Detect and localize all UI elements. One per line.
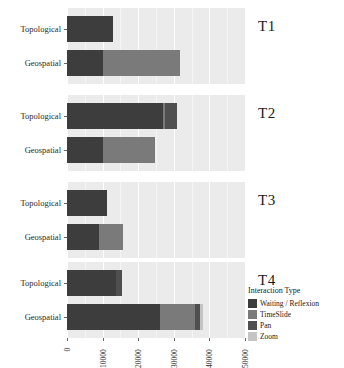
y-axis-label-topological: Topological [0, 198, 61, 208]
gridline-x-50000 [245, 8, 246, 84]
x-axis-label-40000: 40000 [205, 342, 214, 368]
legend-swatch-icon [248, 310, 257, 319]
bar-t3-topological [67, 190, 245, 216]
legend-item-pan[interactable]: Pan [248, 320, 319, 330]
facet-label-t1: T1 [258, 18, 276, 35]
facet-panel-t1: TopologicalGeospatial [0, 8, 344, 84]
bar-t1-geospatial [67, 50, 245, 76]
bar-segment-waiting-reflexion [67, 270, 116, 296]
bar-segment-waiting-reflexion [67, 224, 99, 250]
legend-item-zoom[interactable]: Zoom [248, 331, 319, 341]
bar-t4-topological [67, 270, 245, 296]
gridline-x-50000 [245, 262, 246, 338]
gridline-x-50000 [245, 182, 246, 258]
legend-label: Zoom [260, 332, 278, 341]
bar-segment-timeslide [160, 304, 195, 330]
legend-swatch-icon [248, 321, 257, 330]
gridline-x-50000 [245, 95, 246, 171]
bar-segment-waiting-reflexion [67, 103, 163, 129]
legend-title: Interaction Type [248, 286, 319, 295]
x-axis-label-0: 0 [63, 333, 72, 367]
bar-segment-waiting-reflexion [67, 137, 103, 163]
facet-label-t2: T2 [258, 105, 276, 122]
stacked-bar-chart: TopologicalGeospatialT1TopologicalGeospa… [0, 0, 344, 368]
x-axis-label-30000: 30000 [169, 342, 178, 368]
bar-segment-timeslide [103, 137, 155, 163]
bar-segment-waiting-reflexion [67, 304, 160, 330]
legend-swatch-icon [248, 299, 257, 308]
bar-segment-pan [116, 270, 122, 296]
bar-segment-waiting-reflexion [67, 190, 107, 216]
y-axis-label-geospatial: Geospatial [0, 58, 61, 68]
x-axis-label-10000: 10000 [98, 342, 107, 368]
y-axis-label-topological: Topological [0, 24, 61, 34]
bar-t2-geospatial [67, 137, 245, 163]
x-axis-label-50000: 50000 [241, 342, 250, 368]
bar-t2-topological [67, 103, 245, 129]
bar-segment-waiting-reflexion [67, 50, 103, 76]
y-axis-label-geospatial: Geospatial [0, 312, 61, 322]
bar-segment-zoom [200, 304, 203, 330]
legend-label: Pan [260, 321, 271, 330]
bar-segment-timeslide [99, 224, 123, 250]
bar-segment-timeslide [103, 50, 180, 76]
facet-panel-t3: TopologicalGeospatial [0, 182, 344, 258]
legend-swatch-icon [248, 332, 257, 341]
bar-segment-pan [165, 103, 177, 129]
y-axis-label-topological: Topological [0, 278, 61, 288]
bar-segment-waiting-reflexion [67, 16, 113, 42]
y-axis-label-geospatial: Geospatial [0, 232, 61, 242]
x-axis-label-20000: 20000 [134, 342, 143, 368]
y-axis-label-geospatial: Geospatial [0, 145, 61, 155]
facet-label-t3: T3 [258, 192, 276, 209]
legend: Interaction TypeWaiting / ReflexionTimeS… [248, 286, 319, 342]
legend-item-timeslide[interactable]: TimeSlide [248, 309, 319, 319]
bar-t4-geospatial [67, 304, 245, 330]
bar-t1-topological [67, 16, 245, 42]
bar-t3-geospatial [67, 224, 245, 250]
facet-panel-t2: TopologicalGeospatial [0, 95, 344, 171]
legend-label: TimeSlide [260, 310, 291, 319]
legend-item-waiting-reflexion[interactable]: Waiting / Reflexion [248, 298, 319, 308]
y-axis-label-topological: Topological [0, 111, 61, 121]
legend-label: Waiting / Reflexion [260, 299, 319, 308]
